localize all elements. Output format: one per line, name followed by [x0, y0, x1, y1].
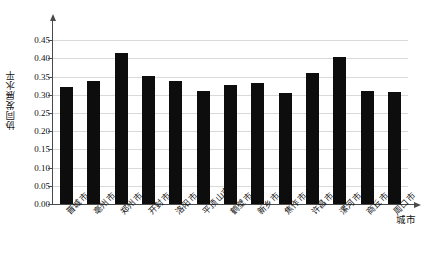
y-axis-line [52, 20, 53, 205]
y-axis-tick-label: 0.35 [18, 72, 50, 81]
y-axis-tick-label: 0.45 [18, 36, 50, 45]
bar [361, 91, 374, 205]
x-axis-tick-labels: 晋城市亳州市郑州市开封市洛阳市平顶山市鹤壁市新乡市焦作市许昌市漯河市商丘市周口市 [53, 204, 408, 265]
y-axis-tick-label: 0.30 [18, 90, 50, 99]
y-axis-tick-label: 0.10 [18, 163, 50, 172]
plot-area [53, 33, 408, 204]
y-axis-tick-label: 0.25 [18, 109, 50, 118]
bar-chart: 协同发展水平 0.000.050.100.150.200.250.300.350… [0, 0, 438, 265]
bar [306, 73, 319, 204]
y-axis-tick-label: 0.05 [18, 181, 50, 190]
y-axis-tick-label: 0.20 [18, 127, 50, 136]
y-axis-tick-mark [48, 58, 52, 59]
y-axis-tick-mark [48, 186, 52, 187]
bar [197, 91, 210, 204]
y-axis-tick-mark [48, 40, 52, 41]
y-axis-tick-mark [48, 131, 52, 132]
bar [115, 53, 128, 204]
y-axis-arrow-icon [50, 14, 56, 21]
y-axis-tick-mark [48, 113, 52, 114]
bars-layer [53, 33, 408, 204]
y-axis-tick-label: 0.15 [18, 145, 50, 154]
x-axis-arrow-icon [414, 202, 421, 208]
y-axis-tick-mark [48, 95, 52, 96]
y-axis-tick-label: 0.00 [18, 200, 50, 209]
y-axis-tick-label: 0.40 [18, 54, 50, 63]
y-axis-tick-mark [48, 77, 52, 78]
bar [333, 57, 346, 204]
bar [279, 93, 292, 204]
y-axis-tick-mark [48, 149, 52, 150]
y-axis-tick-mark [48, 168, 52, 169]
y-axis-tick-mark [48, 204, 52, 205]
bar [142, 76, 155, 204]
bar [87, 81, 100, 204]
bar [251, 83, 264, 204]
y-axis-tick-labels: 0.000.050.100.150.200.250.300.350.400.45 [18, 0, 50, 265]
x-axis-title: 城市 [396, 212, 416, 226]
bar [60, 87, 73, 204]
bar [169, 81, 182, 204]
bar [388, 92, 401, 204]
